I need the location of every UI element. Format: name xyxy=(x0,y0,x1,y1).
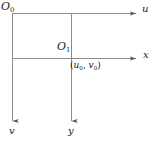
label-origin-pixel-subscript: 0 xyxy=(10,6,14,14)
principal-point-paren-close: ) xyxy=(97,60,101,70)
principal-point-v-subscript: 0 xyxy=(94,65,98,71)
diagram-canvas xyxy=(0,0,151,141)
label-origin-pixel: O0 xyxy=(1,1,14,12)
principal-point-u-subscript: 0 xyxy=(79,65,83,71)
label-axis-v: v xyxy=(9,126,15,136)
label-origin-pixel-letter: O xyxy=(1,0,10,13)
principal-point-v: v xyxy=(89,60,94,70)
label-axis-y: y xyxy=(68,126,74,136)
label-origin-image-letter: O xyxy=(57,40,66,53)
label-origin-image: O1 xyxy=(57,41,70,52)
coordinate-system-diagram: O0 u O1 x (u0, v0) v y xyxy=(0,0,151,141)
label-axis-u: u xyxy=(142,4,148,14)
label-origin-image-subscript: 1 xyxy=(66,46,70,54)
label-axis-x: x xyxy=(143,50,149,60)
label-principal-point: (u0, v0) xyxy=(70,61,101,70)
